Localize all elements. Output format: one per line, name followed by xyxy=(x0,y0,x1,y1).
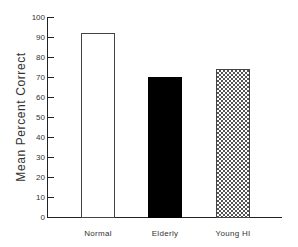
y-tick xyxy=(48,157,54,158)
bar-elderly xyxy=(148,77,182,218)
bar-normal xyxy=(81,33,115,218)
bar-young-hi xyxy=(216,69,250,218)
y-tick xyxy=(48,137,54,138)
y-tick-label: 40 xyxy=(36,133,45,142)
x-tick-label: Young HI xyxy=(215,229,250,238)
y-tick-label: 0 xyxy=(41,213,45,222)
y-tick xyxy=(48,197,54,198)
y-tick xyxy=(48,77,54,78)
y-tick-label: 90 xyxy=(36,33,45,42)
y-tick xyxy=(48,37,54,38)
y-tick-label: 100 xyxy=(32,13,45,22)
bar-chart: Mean Percent Correct 0102030405060708090… xyxy=(0,0,298,247)
x-tick-label: Elderly xyxy=(152,229,179,238)
y-tick-label: 10 xyxy=(36,193,45,202)
x-tick-label: Normal xyxy=(84,229,112,238)
y-tick-label: 50 xyxy=(36,113,45,122)
y-tick-label: 80 xyxy=(36,53,45,62)
y-tick xyxy=(48,117,54,118)
y-tick-label: 60 xyxy=(36,93,45,102)
y-tick-label: 30 xyxy=(36,153,45,162)
y-tick xyxy=(48,97,54,98)
y-tick xyxy=(48,57,54,58)
y-tick xyxy=(48,17,54,18)
y-tick-label: 70 xyxy=(36,73,45,82)
y-tick xyxy=(48,177,54,178)
y-tick-label: 20 xyxy=(36,173,45,182)
y-axis-label: Mean Percent Correct xyxy=(14,52,28,181)
y-tick xyxy=(48,217,54,218)
